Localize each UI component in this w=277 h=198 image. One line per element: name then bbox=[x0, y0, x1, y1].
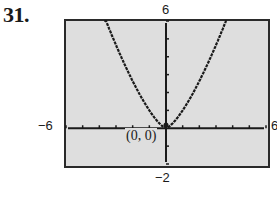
y-min-label: −2 bbox=[155, 170, 170, 185]
axes bbox=[66, 21, 266, 164]
x-min-label: −6 bbox=[38, 118, 53, 133]
graph-plot bbox=[0, 0, 277, 198]
origin-point bbox=[164, 123, 169, 128]
x-max-label: 6 bbox=[271, 118, 277, 133]
origin-label: (0, 0) bbox=[125, 128, 157, 144]
y-max-label: 6 bbox=[162, 2, 169, 17]
